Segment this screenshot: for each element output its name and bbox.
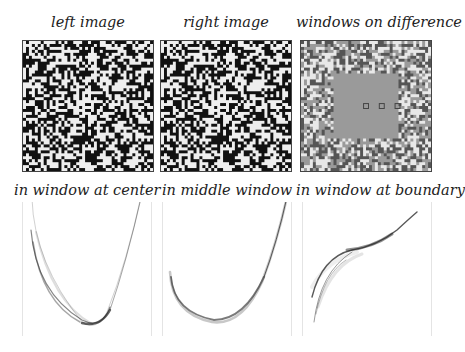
plot-center (22, 202, 152, 336)
title-left-image: left image (22, 14, 154, 30)
difference-panel (300, 40, 432, 172)
curve-middle (162, 202, 292, 336)
left-image-panel (22, 40, 154, 172)
right-image-panel (160, 40, 292, 172)
curve-center (22, 202, 152, 336)
title-middle-window: in middle window (158, 182, 296, 198)
plot-middle (162, 202, 292, 336)
plot-boundary (302, 202, 432, 336)
title-window-boundary: in window at boundary (296, 182, 460, 198)
curve-boundary (302, 202, 432, 336)
title-right-image: right image (160, 14, 292, 30)
title-window-center: in window at center (14, 182, 158, 198)
title-windows-on-difference: windows on difference (296, 14, 460, 30)
